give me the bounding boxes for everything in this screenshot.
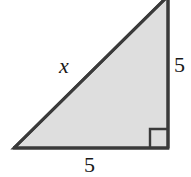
vertical-leg-label: 5 — [174, 54, 185, 76]
triangle-graphic — [0, 0, 191, 177]
hypotenuse-label: x — [59, 55, 69, 77]
triangle-figure: x 5 5 — [0, 0, 191, 177]
horizontal-leg-label: 5 — [84, 154, 95, 176]
